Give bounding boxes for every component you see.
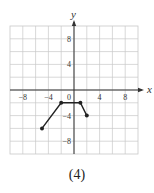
figure-caption: (4) (0, 167, 154, 183)
x-tick-label: −4 (44, 93, 53, 102)
x-tick-label: 8 (123, 93, 127, 102)
y-axis-label: y (70, 8, 76, 20)
data-point (85, 114, 89, 118)
graph-plot: xy −8−404884−4−8 (0, 0, 154, 193)
data-point (40, 126, 44, 130)
x-axis-arrow-icon (138, 88, 144, 92)
axes: xy (10, 8, 152, 154)
y-tick-label: −8 (62, 137, 71, 146)
x-tick-label: 0 (67, 93, 71, 102)
x-axis-label: x (146, 83, 152, 95)
y-tick-label: 4 (67, 60, 71, 69)
y-axis-arrow-icon (72, 20, 76, 26)
x-tick-label: 4 (98, 93, 102, 102)
y-tick-label: 8 (67, 35, 71, 44)
x-tick-label: −8 (19, 93, 28, 102)
data-point (78, 101, 82, 105)
data-point (59, 101, 63, 105)
y-tick-label: −4 (62, 112, 71, 121)
